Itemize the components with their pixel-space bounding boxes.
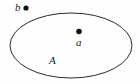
set-membership-figure: b a A — [0, 0, 140, 84]
point-dot-b — [23, 5, 28, 10]
point-label-b: b — [15, 2, 21, 13]
set-ellipse-A — [10, 13, 132, 78]
point-dot-a — [76, 29, 82, 35]
set-label-A: A — [49, 55, 56, 66]
point-label-a: a — [76, 37, 82, 48]
figure-svg — [0, 0, 140, 84]
